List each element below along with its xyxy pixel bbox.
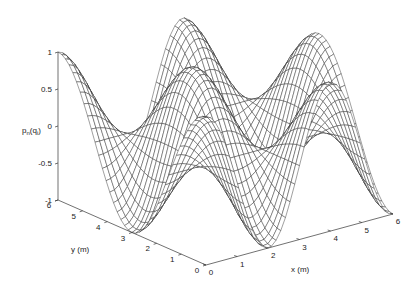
svg-text:1: 1 <box>170 255 175 264</box>
svg-text:5: 5 <box>365 226 370 235</box>
surface-plot: -1-0.500.51 0123456 0123456 pn(qi) y (m)… <box>0 0 420 289</box>
svg-text:6: 6 <box>396 217 401 226</box>
svg-text:2: 2 <box>145 244 150 253</box>
svg-text:0.5: 0.5 <box>41 85 53 94</box>
svg-text:3: 3 <box>302 243 307 252</box>
y-axis-label: y (m) <box>71 245 90 254</box>
svg-text:4: 4 <box>333 234 338 243</box>
svg-text:2: 2 <box>271 251 276 260</box>
surface-mesh <box>58 18 393 248</box>
x-axis-label: x (m) <box>291 265 310 274</box>
svg-text:1: 1 <box>240 260 245 269</box>
svg-text:6: 6 <box>47 201 52 210</box>
svg-text:0: 0 <box>195 266 200 275</box>
svg-text:-0.5: -0.5 <box>38 159 52 168</box>
svg-text:1: 1 <box>48 48 53 57</box>
z-axis-ticks: -1-0.500.51 <box>38 48 58 205</box>
z-axis-label: pn(qi) <box>22 126 41 136</box>
svg-text:0: 0 <box>209 268 214 277</box>
svg-text:5: 5 <box>71 212 76 221</box>
svg-text:3: 3 <box>121 234 126 243</box>
svg-text:0: 0 <box>48 122 53 131</box>
svg-text:4: 4 <box>96 223 101 232</box>
